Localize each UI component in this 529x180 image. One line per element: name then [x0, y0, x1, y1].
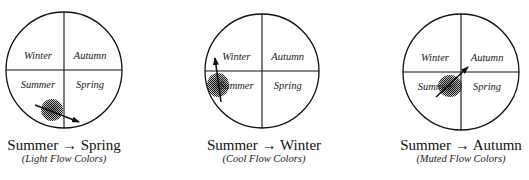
season-wheel-1: WinterAutumnSummerSpringSummer → Spring(…: [6, 12, 122, 165]
quadrant-label-summer: Summer: [219, 80, 254, 91]
quadrant-label-winter: Winter: [24, 50, 53, 61]
quadrant-label-winter: Winter: [222, 51, 251, 62]
quadrant-label-spring: Spring: [473, 81, 501, 92]
season-wheel-2: WinterAutumnSummerSpringSummer → Winter(…: [205, 14, 321, 165]
quadrant-label-summer: Summer: [21, 79, 56, 90]
caption-title: Summer → Spring: [7, 137, 121, 153]
caption-subtitle: (Light Flow Colors): [22, 153, 107, 165]
quadrant-label-autumn: Autumn: [470, 52, 504, 63]
season-wheel-3: WinterAutumnSummerSpringSummer → Autumn(…: [400, 14, 522, 165]
caption-subtitle: (Muted Flow Colors): [416, 153, 506, 165]
quadrant-label-autumn: Autumn: [270, 51, 304, 62]
caption-title: Summer → Autumn: [400, 137, 522, 153]
caption-title: Summer → Winter: [207, 137, 321, 153]
seasonal-color-flow-diagram: WinterAutumnSummerSpringSummer → Spring(…: [0, 0, 529, 180]
quadrant-label-spring: Spring: [274, 80, 302, 91]
quadrant-label-winter: Winter: [421, 52, 450, 63]
caption-subtitle: (Cool Flow Colors): [223, 153, 306, 165]
quadrant-label-autumn: Autumn: [73, 50, 107, 61]
quadrant-label-spring: Spring: [76, 79, 104, 90]
